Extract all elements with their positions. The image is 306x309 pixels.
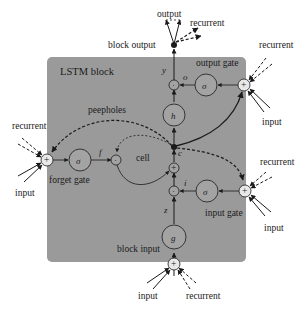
edge-og-recurrent-2 [250, 64, 272, 82]
lstm-block-title: LSTM block [60, 66, 115, 77]
var-z: z [163, 205, 168, 215]
edge-output-2 [174, 20, 180, 44]
edge-output-1 [166, 20, 174, 44]
input-gate-sigma-symbol: σ [203, 187, 208, 197]
output-gate-sum-symbol: + [241, 80, 246, 90]
label-block-input: block input [117, 244, 160, 254]
label-input-bottom: input [138, 291, 158, 301]
block-output-node [171, 42, 177, 48]
edge-og-recurrent-1 [249, 58, 266, 80]
var-o: o [183, 72, 188, 82]
var-c: c [178, 148, 182, 158]
output-activation-h-symbol: h [171, 111, 176, 121]
label-input-ig: input [264, 223, 284, 233]
label-output-gate: output gate [196, 58, 238, 68]
label-peepholes: peepholes [88, 105, 126, 115]
edge-recurrent-out-2 [176, 36, 201, 42]
label-recurrent-bottom: recurrent [186, 291, 221, 301]
cell-sum-symbol: + [171, 163, 176, 173]
label-block-output: block output [108, 40, 156, 50]
input-activation-g-symbol: g [171, 233, 176, 243]
edge-og-input-1 [250, 89, 270, 108]
edge-fg-recurrent-2 [18, 144, 41, 157]
var-y: y [161, 65, 166, 75]
input-gate-sum-symbol: + [242, 186, 247, 196]
label-recurrent-top: recurrent [190, 18, 225, 28]
forget-gate-sigma-symbol: σ [76, 156, 81, 166]
label-forget-gate: forget gate [49, 175, 90, 185]
label-recurrent-og: recurrent [259, 40, 294, 50]
block-input-sum-symbol: + [171, 259, 176, 269]
label-input-fg: input [15, 188, 35, 198]
output-gate-sigma-symbol: σ [202, 81, 207, 91]
label-recurrent-ig: recurrent [260, 157, 295, 167]
label-cell: cell [136, 153, 150, 163]
input-multiply-symbol: · [172, 186, 175, 196]
label-input-gate: input gate [205, 208, 243, 218]
output-multiply-symbol: · [172, 80, 175, 90]
cell-state-node [171, 144, 177, 150]
forget-gate-sum-symbol: + [44, 155, 49, 165]
label-input-og: input [262, 117, 282, 127]
lstm-block-diagram: LSTM block output recurrent block output… [0, 0, 306, 309]
label-recurrent-fg: recurrent [12, 121, 47, 131]
forget-multiply-symbol: · [114, 155, 117, 165]
label-output: output [157, 9, 182, 19]
